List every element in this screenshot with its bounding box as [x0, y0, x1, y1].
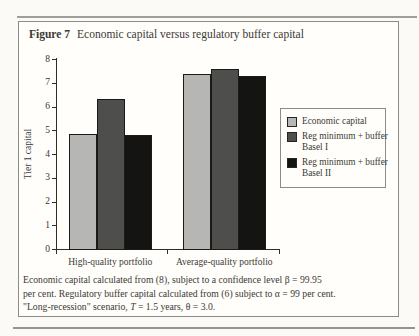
y-tick-label: 6	[30, 101, 50, 112]
y-tick	[52, 154, 56, 155]
bar-series1-group1	[69, 134, 97, 250]
y-axis-line	[56, 58, 57, 250]
y-tick-label: 1	[30, 220, 50, 231]
caption-line: per cent. Regulatory buffer capital calc…	[23, 287, 395, 301]
y-tick	[52, 83, 56, 84]
y-tick-label: 4	[30, 149, 50, 160]
y-tick-label: 5	[30, 125, 50, 136]
figure-box: Figure 7Economic capital versus regulato…	[18, 21, 399, 317]
y-tick	[52, 225, 56, 226]
bottom-rule-divider	[13, 327, 415, 329]
top-rule-divider	[17, 16, 417, 18]
caption-line: Economic capital calculated from (8), su…	[23, 273, 395, 287]
x-tick	[279, 250, 280, 254]
legend-swatch-icon	[287, 117, 297, 127]
legend-item: Reg minimum + bufferBasel II	[287, 157, 381, 179]
caption-text: Economic capital calculated from (8), su…	[23, 274, 322, 285]
legend-label-line2: Basel I	[302, 142, 381, 153]
legend-item: Economic capital	[287, 116, 381, 127]
legend-row: Economic capital	[287, 116, 381, 127]
x-tick	[56, 250, 57, 254]
legend-item: Reg minimum + bufferBasel I	[287, 131, 381, 153]
y-tick	[52, 178, 56, 179]
caption-text: = 1.5 years, θ = 3.0.	[136, 301, 216, 312]
legend-row: Reg minimum + buffer	[287, 131, 381, 142]
y-tick-label: 0	[30, 244, 50, 255]
legend-row: Reg minimum + buffer	[287, 157, 381, 168]
caption-line: "Long-recession" scenario, T = 1.5 years…	[23, 300, 395, 314]
legend-label-line2: Basel II	[302, 168, 381, 179]
bar-series2-group2	[211, 69, 239, 251]
legend: Economic capitalReg minimum + bufferBase…	[280, 108, 386, 188]
y-tick-label: 2	[30, 196, 50, 207]
y-tick-label: 7	[30, 77, 50, 88]
bar-series3-group1	[124, 135, 152, 250]
legend-label: Reg minimum + buffer	[302, 157, 388, 168]
bar-series2-group1	[97, 99, 125, 250]
y-tick-label: 8	[30, 54, 50, 65]
page: Figure 7Economic capital versus regulato…	[0, 0, 419, 336]
legend-swatch-icon	[287, 132, 297, 142]
category-label: Average-quality portfolio	[176, 257, 273, 267]
y-tick-label: 3	[30, 172, 50, 183]
bar-series1-group2	[183, 74, 211, 250]
x-tick	[167, 250, 168, 254]
caption-text: per cent. Regulatory buffer capital calc…	[23, 288, 336, 299]
caption: Economic capital calculated from (8), su…	[23, 273, 395, 314]
legend-swatch-icon	[287, 158, 297, 168]
legend-label: Economic capital	[302, 116, 367, 127]
caption-text: "Long-recession" scenario,	[23, 301, 130, 312]
bar-series3-group2	[238, 76, 266, 250]
y-tick	[52, 107, 56, 108]
y-tick	[52, 59, 56, 60]
y-tick	[52, 130, 56, 131]
legend-label: Reg minimum + buffer	[302, 131, 388, 142]
y-tick	[52, 202, 56, 203]
category-label: High-quality portfolio	[68, 257, 152, 267]
